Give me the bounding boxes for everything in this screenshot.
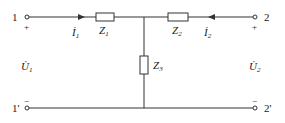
minus-sign-port2: −	[252, 96, 257, 106]
u1-label: U̇1	[21, 60, 32, 74]
terminal-2-prime-label: 2'	[264, 102, 272, 114]
terminal-2-prime[interactable]	[253, 106, 257, 110]
minus-sign-port1: −	[24, 96, 29, 106]
impedance-z1	[96, 13, 114, 21]
z2-label: Z2	[172, 24, 182, 38]
terminal-1[interactable]	[25, 15, 29, 19]
terminal-1-prime-label: 1'	[12, 102, 20, 114]
plus-sign-port1: +	[24, 22, 29, 32]
terminal-2[interactable]	[253, 15, 257, 19]
z3-label: Z3	[153, 59, 163, 73]
current-arrow-i1	[78, 14, 85, 20]
i1-label: İ1	[71, 26, 79, 40]
current-arrow-i2	[208, 14, 215, 20]
u2-label: U̇2	[249, 60, 261, 74]
impedance-z3	[140, 56, 148, 74]
plus-sign-port2: +	[252, 22, 257, 32]
terminal-1-label: 1	[12, 11, 18, 23]
terminal-1-prime[interactable]	[25, 106, 29, 110]
circuit-diagram: 1 1' 2 2' + − + − Z1 Z2 Z3 İ1 İ2 U̇1 U̇2	[0, 0, 285, 123]
i2-label: İ2	[203, 26, 212, 40]
z1-label: Z1	[99, 24, 109, 38]
terminal-2-label: 2	[264, 11, 270, 23]
impedance-z2	[168, 13, 188, 21]
